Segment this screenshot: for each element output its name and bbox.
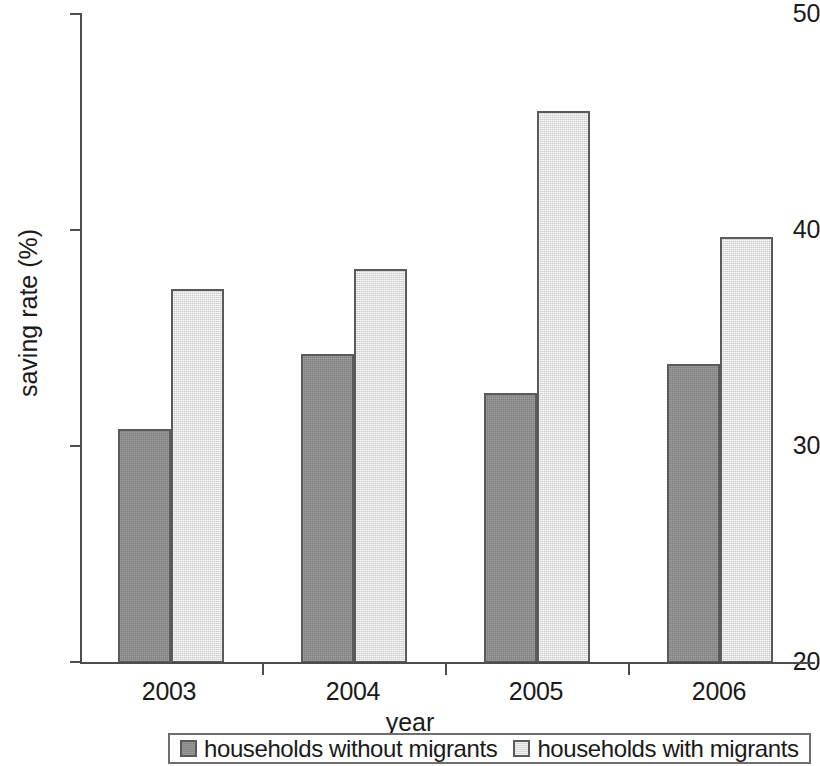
- y-axis-tick: [70, 13, 82, 15]
- x-axis-tick-label-2003: 2003: [82, 677, 256, 705]
- y-axis-tick-label: 50: [758, 1, 820, 26]
- bar-with-migrants-2005: [537, 111, 590, 663]
- chart-legend: households without migrants households w…: [168, 733, 811, 764]
- x-axis-tick-label-2006: 2006: [632, 677, 806, 705]
- x-axis-tick: [628, 664, 630, 675]
- x-axis-tick-label-2005: 2005: [449, 677, 623, 705]
- y-axis-title: saving rate (%): [15, 193, 41, 433]
- x-axis-title: year: [0, 709, 820, 736]
- bar-without-migrants-2003: [118, 429, 171, 663]
- light-swatch-icon: [513, 740, 530, 757]
- y-axis-line: [80, 14, 82, 663]
- legend-entry-without-migrants: households without migrants: [180, 736, 497, 761]
- x-axis-tick: [445, 664, 447, 675]
- bar-without-migrants-2005: [484, 393, 537, 663]
- x-axis-tick-label-2004: 2004: [266, 677, 440, 705]
- legend-label-with-migrants: households with migrants: [537, 736, 798, 761]
- x-axis-tick: [262, 664, 264, 675]
- dark-swatch-icon: [180, 740, 197, 757]
- x-axis-line: [80, 662, 815, 664]
- y-axis-tick: [70, 229, 82, 231]
- bar-without-migrants-2004: [301, 354, 354, 663]
- bar-chart: 50 40 30 20 saving rate (%) 2003 2004 20…: [0, 0, 820, 766]
- bar-with-migrants-2004: [354, 269, 407, 663]
- legend-label-without-migrants: households without migrants: [204, 736, 497, 761]
- bar-with-migrants-2006: [720, 237, 773, 663]
- y-axis-tick: [70, 445, 82, 447]
- bar-with-migrants-2003: [171, 289, 224, 663]
- bar-without-migrants-2006: [667, 364, 720, 663]
- legend-entry-with-migrants: households with migrants: [513, 736, 798, 761]
